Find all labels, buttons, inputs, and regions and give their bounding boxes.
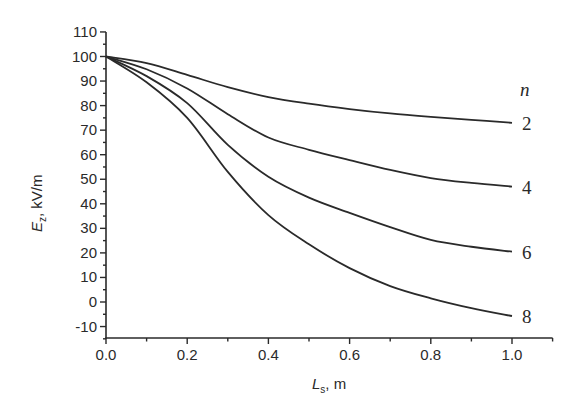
y-tick-label: -10	[75, 318, 97, 335]
x-tick-label: 0.4	[258, 346, 279, 363]
x-tick-label: 0.2	[177, 346, 198, 363]
x-axis-ticks: 0.00.20.40.60.81.0	[96, 338, 553, 363]
x-tick-label: 0.6	[339, 346, 360, 363]
series-curve-n-4	[106, 57, 512, 187]
line-chart: -100102030405060708090100110 0.00.20.40.…	[0, 0, 577, 410]
y-axis-label: Ez, kV/m	[28, 174, 48, 232]
y-tick-label: 80	[80, 97, 97, 114]
y-tick-label: 0	[89, 293, 97, 310]
series-curve-n-2	[106, 57, 512, 123]
y-tick-label: 30	[80, 219, 97, 236]
y-tick-label: 50	[80, 170, 97, 187]
y-tick-label: 10	[80, 268, 97, 285]
x-tick-label: 0.0	[96, 346, 117, 363]
x-axis-label: Ls, m	[312, 375, 346, 395]
y-tick-label: 90	[80, 72, 97, 89]
y-tick-label: 100	[72, 48, 97, 65]
series-label-n-8: 8	[522, 306, 532, 327]
x-tick-label: 0.8	[420, 346, 441, 363]
y-tick-label: 60	[80, 146, 97, 163]
series-label-n-2: 2	[522, 113, 532, 134]
y-tick-label: 110	[73, 23, 97, 40]
series-curves	[106, 57, 512, 316]
y-tick-label: 70	[80, 121, 97, 138]
series-label-n-4: 4	[522, 177, 532, 198]
y-tick-label: 40	[80, 195, 97, 212]
series-curve-n-8	[106, 57, 512, 316]
x-tick-label: 1.0	[502, 346, 523, 363]
series-label-n-6: 6	[522, 242, 532, 263]
series-labels: 2468	[522, 113, 532, 327]
y-axis-ticks: -100102030405060708090100110	[72, 23, 106, 339]
y-tick-label: 20	[80, 244, 97, 261]
legend-title: n	[520, 79, 530, 100]
series-curve-n-6	[106, 57, 512, 252]
